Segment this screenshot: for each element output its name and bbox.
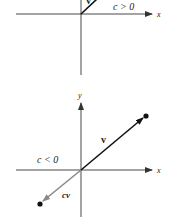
vector-v bbox=[81, 118, 143, 170]
vector-cv-label: cv bbox=[62, 190, 71, 200]
panel-positive-scalar: v c > 0 x bbox=[16, 0, 161, 75]
y-axis-label: y bbox=[77, 91, 82, 100]
x-axis-label: x bbox=[156, 10, 161, 19]
panel-negative-scalar: y x v cv c < 0 bbox=[16, 91, 161, 217]
condition-label: c < 0 bbox=[37, 154, 58, 165]
vector-v-label: v bbox=[86, 0, 91, 6]
vector-cv-endpoint bbox=[37, 201, 42, 206]
x-axis-label: x bbox=[156, 166, 161, 175]
condition-label: c > 0 bbox=[113, 1, 134, 12]
vector-v-label: v bbox=[101, 134, 106, 145]
vector-v-endpoint bbox=[143, 113, 148, 118]
scalar-multiplication-diagram: v c > 0 x y x v cv c < 0 bbox=[0, 0, 172, 217]
